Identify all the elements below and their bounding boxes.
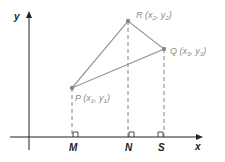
triangle-diagram: y x R (x2, y2) Q (x3, y3) P (x1, y1) M N… bbox=[0, 0, 225, 162]
label-R: R (x2, y2) bbox=[136, 10, 172, 21]
point-R bbox=[126, 19, 130, 23]
triangle-PRQ bbox=[72, 21, 164, 88]
label-P: P (x1, y1) bbox=[75, 93, 110, 104]
right-angle-N bbox=[129, 132, 134, 137]
point-Q bbox=[162, 47, 166, 51]
right-angle-S bbox=[158, 132, 163, 137]
right-angle-M bbox=[73, 132, 78, 137]
label-M: M bbox=[69, 142, 78, 153]
point-P bbox=[70, 86, 74, 90]
label-N: N bbox=[125, 142, 133, 153]
x-axis-arrow-icon bbox=[196, 134, 203, 140]
label-Q: Q (x3, y3) bbox=[170, 46, 206, 57]
x-axis-label: x bbox=[194, 141, 201, 152]
y-axis-label: y bbox=[13, 11, 20, 22]
y-axis-arrow-icon bbox=[26, 11, 32, 18]
label-S: S bbox=[158, 142, 165, 153]
